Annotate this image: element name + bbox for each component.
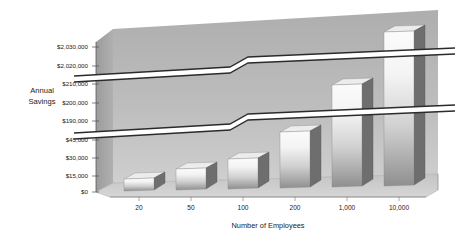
x-tick-label-2: 100 xyxy=(237,204,248,211)
y-axis-title-line-1: Annual xyxy=(30,86,54,95)
chart-container: $2,030,000 $2,020,000 $210,000 $200,000 … xyxy=(0,0,464,238)
y-tick-label-0: $2,030,000 xyxy=(57,43,89,50)
x-tick-label-3: 200 xyxy=(289,204,300,211)
x-tick-label-4: 1,000 xyxy=(339,204,356,211)
bar-200[interactable] xyxy=(280,125,321,188)
bar-50-face xyxy=(176,168,206,190)
y-tick-label-4: $190,000 xyxy=(62,117,88,124)
y-axis-title: Annual Savings xyxy=(28,86,55,106)
annual-savings-bar-chart: $2,030,000 $2,020,000 $210,000 $200,000 … xyxy=(0,0,464,238)
x-tick-label-0: 20 xyxy=(135,204,143,211)
x-tick-label-5: 10,000 xyxy=(389,204,410,211)
bar-1000-face xyxy=(332,84,362,187)
bar-20-face xyxy=(124,178,154,191)
y-tick-label-6: $30,000 xyxy=(66,154,89,161)
bar-50[interactable] xyxy=(176,162,217,190)
y-tick-label-7: $15,000 xyxy=(66,172,89,179)
bar-100[interactable] xyxy=(228,152,269,189)
bar-100-face xyxy=(228,158,258,189)
bar-200-face xyxy=(280,131,310,188)
x-axis-title: Number of Employees xyxy=(231,221,304,230)
bar-1000[interactable] xyxy=(332,78,373,187)
y-axis-title-line-2: Savings xyxy=(28,97,55,106)
y-tick-label-8: $0 xyxy=(81,188,88,195)
bar-1000-side xyxy=(362,78,373,186)
y-tick-label-3: $200,000 xyxy=(62,99,88,106)
y-tick-label-1: $2,020,000 xyxy=(57,62,89,69)
y-axis: $2,030,000 $2,020,000 $210,000 $200,000 … xyxy=(57,42,99,195)
left-wall xyxy=(96,29,113,192)
x-tick-label-1: 50 xyxy=(187,204,195,211)
x-axis: 20 50 100 200 1,000 10,000 xyxy=(110,197,426,211)
bar-200-side xyxy=(310,125,321,187)
